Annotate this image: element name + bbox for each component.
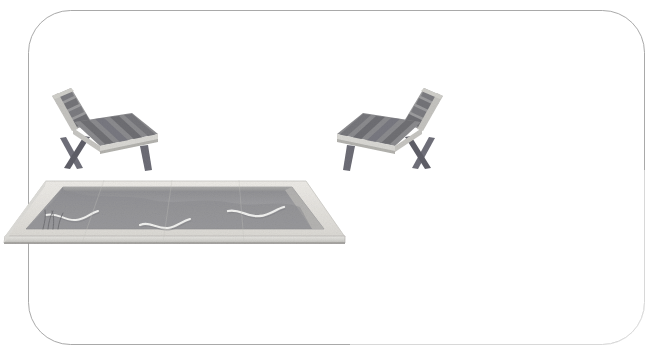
pool-back-wall xyxy=(63,187,292,192)
illustration-canvas: Reflecting pool with two wooden lounge c… xyxy=(0,0,653,357)
lounge-chair-right xyxy=(337,88,443,171)
rounded-rectangle-frame xyxy=(29,11,645,345)
reflecting-pool xyxy=(4,180,345,244)
lounge-chair-left xyxy=(52,88,158,171)
chair-right-front-leg xyxy=(343,145,355,171)
pool-ground-shadow xyxy=(4,242,345,244)
scene-svg xyxy=(0,0,653,357)
pool-front-face xyxy=(4,236,345,243)
chair-left-front-leg xyxy=(140,145,152,171)
